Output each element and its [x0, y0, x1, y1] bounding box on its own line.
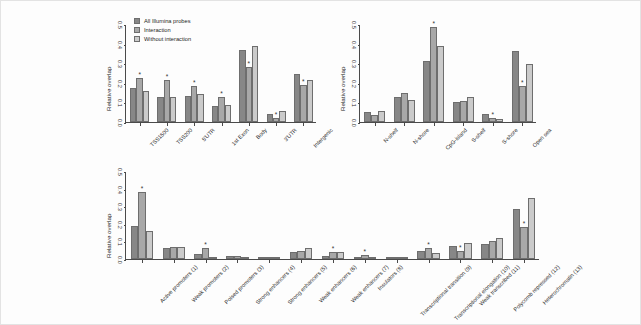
- bar-group: [239, 25, 258, 122]
- bar[interactable]: [194, 254, 201, 259]
- significance-marker: *: [204, 242, 207, 249]
- x-axis-tick-label: N-shore: [412, 127, 430, 145]
- bar[interactable]: [482, 114, 489, 122]
- x-axis-tick-label: S-shore: [500, 127, 518, 145]
- bar[interactable]: [279, 111, 285, 122]
- y-axis-tick-mark: [358, 103, 361, 104]
- bar[interactable]: [512, 51, 519, 122]
- bar[interactable]: [354, 257, 361, 259]
- bar[interactable]: [197, 94, 203, 122]
- bar[interactable]: [361, 255, 368, 259]
- bar[interactable]: [437, 46, 444, 122]
- bar[interactable]: [449, 246, 456, 259]
- bar[interactable]: [481, 244, 488, 259]
- bar[interactable]: [453, 102, 460, 122]
- bar[interactable]: [170, 247, 177, 259]
- significance-marker: *: [364, 249, 367, 256]
- bar[interactable]: [225, 105, 231, 122]
- bar[interactable]: [337, 252, 344, 259]
- bar[interactable]: [393, 257, 400, 259]
- bar[interactable]: [290, 252, 297, 259]
- bar[interactable]: [131, 226, 138, 259]
- bar[interactable]: [143, 91, 149, 122]
- bar-group: [482, 25, 503, 122]
- bar-group: [386, 172, 408, 259]
- x-axis-tick-label: TSS200: [175, 127, 194, 146]
- bar-group: [481, 172, 503, 259]
- bar[interactable]: [273, 257, 280, 259]
- y-axis-tick-mark: [358, 123, 361, 124]
- bar[interactable]: [489, 118, 496, 122]
- plot-area: 0.00.10.20.30.40.5N-shelfN-shore*CpG-isl…: [359, 25, 536, 123]
- x-axis-tick-mark: [522, 123, 523, 126]
- bar[interactable]: [526, 64, 533, 122]
- bar-group: [364, 25, 385, 122]
- bar[interactable]: [138, 192, 145, 259]
- significance-marker: *: [523, 221, 526, 228]
- x-axis-tick-mark: [434, 123, 435, 126]
- bar[interactable]: [177, 247, 184, 259]
- bar[interactable]: [163, 248, 170, 259]
- plot-area: 0.00.10.20.30.40.5*Active promoters (1)W…: [125, 172, 539, 260]
- bar[interactable]: [467, 97, 474, 122]
- bar-group: [394, 25, 415, 122]
- bar[interactable]: [425, 248, 432, 259]
- bar[interactable]: [430, 27, 437, 122]
- significance-marker: *: [302, 79, 305, 86]
- bar[interactable]: [226, 256, 233, 259]
- significance-marker: *: [166, 74, 169, 81]
- bar[interactable]: [417, 251, 424, 259]
- bar[interactable]: [241, 257, 248, 259]
- bar[interactable]: [322, 256, 329, 259]
- bar[interactable]: [496, 119, 503, 122]
- y-axis-tick-mark: [124, 123, 127, 124]
- bar[interactable]: [519, 86, 526, 122]
- bar[interactable]: [258, 257, 265, 259]
- bar[interactable]: [489, 241, 496, 259]
- bar-group: [294, 25, 313, 122]
- bar[interactable]: [234, 256, 241, 259]
- x-axis-tick-label: Open sea: [531, 127, 552, 148]
- bar[interactable]: [170, 97, 176, 122]
- bar[interactable]: [252, 46, 258, 122]
- x-axis-tick-mark: [140, 123, 141, 126]
- bar-group: [290, 172, 312, 259]
- x-axis-tick-mark: [397, 260, 398, 263]
- bar[interactable]: [297, 251, 304, 259]
- x-axis-tick-label: 5'UTR: [201, 127, 216, 142]
- bar[interactable]: [423, 61, 430, 122]
- bar[interactable]: [146, 231, 153, 260]
- bar[interactable]: [369, 257, 376, 259]
- bar[interactable]: [371, 115, 378, 122]
- bar[interactable]: [460, 101, 467, 122]
- bar[interactable]: [432, 253, 439, 259]
- bar[interactable]: [266, 257, 273, 259]
- x-axis-tick-label: S-shelf: [470, 127, 487, 144]
- bar[interactable]: [400, 257, 407, 259]
- bar[interactable]: [329, 252, 336, 259]
- bar[interactable]: [394, 97, 401, 122]
- x-axis-tick-label: TSS1500: [148, 127, 169, 148]
- significance-marker: *: [491, 112, 494, 119]
- bar[interactable]: [513, 209, 520, 259]
- bar-group: [163, 172, 185, 259]
- bar[interactable]: [305, 248, 312, 259]
- bar[interactable]: [520, 227, 527, 259]
- bar[interactable]: [378, 111, 385, 122]
- bar[interactable]: [401, 93, 408, 122]
- bar[interactable]: [386, 257, 393, 259]
- bar[interactable]: [307, 80, 313, 122]
- x-axis-tick-mark: [142, 260, 143, 263]
- bar[interactable]: [528, 198, 535, 259]
- bar[interactable]: [496, 238, 503, 259]
- bar[interactable]: [464, 243, 471, 259]
- x-axis-tick-mark: [463, 123, 464, 126]
- bar[interactable]: [408, 100, 415, 122]
- y-axis-tick-mark: [124, 84, 127, 85]
- bar[interactable]: [209, 257, 216, 259]
- bar[interactable]: [457, 251, 464, 259]
- bar[interactable]: [202, 248, 209, 259]
- bar[interactable]: [364, 112, 371, 122]
- significance-marker: *: [459, 245, 462, 252]
- y-axis-tick-mark: [124, 190, 127, 191]
